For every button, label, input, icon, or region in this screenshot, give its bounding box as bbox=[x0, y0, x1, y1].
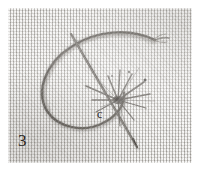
thread-tail bbox=[154, 34, 169, 42]
annotation-label-c: c bbox=[97, 108, 102, 120]
figure-number-label: 3 bbox=[18, 132, 27, 149]
figure-root: c 3 bbox=[0, 0, 198, 172]
stitch-artwork bbox=[8, 8, 192, 163]
photograph-plate: c 3 bbox=[8, 8, 192, 163]
